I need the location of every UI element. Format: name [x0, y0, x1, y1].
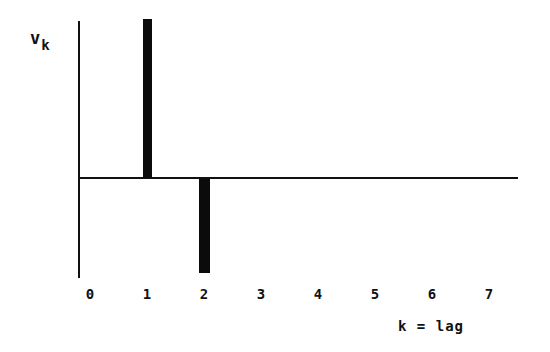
- x-tick-label-3: 3: [251, 287, 271, 301]
- bar-lag-2: [199, 179, 210, 273]
- x-tick-label-4: 4: [308, 287, 328, 301]
- y-axis-label-base: v: [30, 28, 40, 48]
- x-tick-label-2: 2: [194, 287, 214, 301]
- x-tick-label-1: 1: [137, 287, 157, 301]
- x-tick-label-7: 7: [479, 287, 499, 301]
- y-axis-label-subscript: k: [41, 37, 49, 53]
- bar-lag-1: [143, 19, 152, 178]
- vertical-axis-line: [78, 21, 80, 278]
- stem-plot-figure: vk 0 1 2 3 4 5 6 7 k = lag: [0, 0, 550, 352]
- x-axis-title: k = lag: [398, 318, 464, 334]
- y-axis-label: vk: [30, 30, 49, 47]
- x-tick-label-6: 6: [422, 287, 442, 301]
- x-tick-label-0: 0: [80, 287, 100, 301]
- x-tick-label-5: 5: [365, 287, 385, 301]
